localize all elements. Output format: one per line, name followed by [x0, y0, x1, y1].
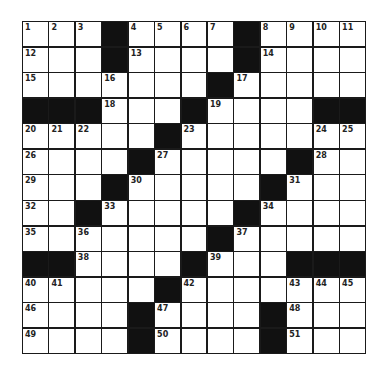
answer-cell[interactable]: 49 — [23, 329, 48, 353]
answer-cell[interactable]: 18 — [102, 99, 127, 123]
answer-cell[interactable]: 11 — [340, 22, 365, 46]
answer-cell[interactable] — [208, 124, 233, 148]
answer-cell[interactable]: 34 — [261, 201, 286, 225]
answer-cell[interactable] — [102, 329, 127, 353]
answer-cell[interactable]: 27 — [155, 150, 180, 174]
answer-cell[interactable]: 24 — [314, 124, 339, 148]
answer-cell[interactable] — [314, 73, 339, 97]
answer-cell[interactable] — [76, 278, 101, 302]
answer-cell[interactable] — [208, 150, 233, 174]
answer-cell[interactable]: 17 — [234, 73, 259, 97]
answer-cell[interactable]: 40 — [23, 278, 48, 302]
answer-cell[interactable]: 22 — [76, 124, 101, 148]
answer-cell[interactable] — [234, 124, 259, 148]
answer-cell[interactable]: 29 — [23, 175, 48, 199]
answer-cell[interactable]: 7 — [208, 22, 233, 46]
answer-cell[interactable]: 15 — [23, 73, 48, 97]
answer-cell[interactable] — [155, 99, 180, 123]
answer-cell[interactable] — [261, 150, 286, 174]
answer-cell[interactable] — [76, 48, 101, 72]
answer-cell[interactable] — [76, 175, 101, 199]
answer-cell[interactable] — [102, 252, 127, 276]
answer-cell[interactable] — [49, 201, 74, 225]
answer-cell[interactable] — [49, 329, 74, 353]
answer-cell[interactable] — [102, 150, 127, 174]
answer-cell[interactable] — [155, 201, 180, 225]
answer-cell[interactable]: 25 — [340, 124, 365, 148]
answer-cell[interactable] — [182, 175, 207, 199]
answer-cell[interactable]: 13 — [129, 48, 154, 72]
answer-cell[interactable]: 4 — [129, 22, 154, 46]
answer-cell[interactable]: 35 — [23, 227, 48, 251]
answer-cell[interactable]: 48 — [287, 303, 312, 327]
answer-cell[interactable] — [234, 175, 259, 199]
answer-cell[interactable]: 1 — [23, 22, 48, 46]
answer-cell[interactable] — [314, 303, 339, 327]
answer-cell[interactable] — [287, 124, 312, 148]
answer-cell[interactable]: 10 — [314, 22, 339, 46]
answer-cell[interactable] — [182, 227, 207, 251]
answer-cell[interactable] — [340, 73, 365, 97]
answer-cell[interactable] — [49, 73, 74, 97]
answer-cell[interactable]: 43 — [287, 278, 312, 302]
answer-cell[interactable]: 5 — [155, 22, 180, 46]
answer-cell[interactable] — [182, 48, 207, 72]
answer-cell[interactable] — [182, 303, 207, 327]
answer-cell[interactable]: 23 — [182, 124, 207, 148]
answer-cell[interactable] — [155, 73, 180, 97]
answer-cell[interactable] — [314, 201, 339, 225]
answer-cell[interactable] — [49, 48, 74, 72]
answer-cell[interactable] — [76, 329, 101, 353]
answer-cell[interactable] — [340, 329, 365, 353]
answer-cell[interactable] — [340, 150, 365, 174]
answer-cell[interactable]: 12 — [23, 48, 48, 72]
answer-cell[interactable]: 2 — [49, 22, 74, 46]
answer-cell[interactable]: 14 — [261, 48, 286, 72]
answer-cell[interactable] — [287, 227, 312, 251]
answer-cell[interactable]: 39 — [208, 252, 233, 276]
answer-cell[interactable] — [76, 150, 101, 174]
answer-cell[interactable] — [261, 278, 286, 302]
answer-cell[interactable]: 36 — [76, 227, 101, 251]
answer-cell[interactable] — [287, 99, 312, 123]
answer-cell[interactable] — [155, 227, 180, 251]
answer-cell[interactable] — [129, 124, 154, 148]
answer-cell[interactable] — [102, 278, 127, 302]
answer-cell[interactable]: 44 — [314, 278, 339, 302]
answer-cell[interactable]: 51 — [287, 329, 312, 353]
answer-cell[interactable] — [76, 303, 101, 327]
answer-cell[interactable] — [261, 227, 286, 251]
answer-cell[interactable] — [49, 175, 74, 199]
answer-cell[interactable] — [234, 252, 259, 276]
answer-cell[interactable]: 19 — [208, 99, 233, 123]
answer-cell[interactable]: 16 — [102, 73, 127, 97]
answer-cell[interactable] — [340, 303, 365, 327]
answer-cell[interactable] — [234, 150, 259, 174]
answer-cell[interactable]: 33 — [102, 201, 127, 225]
answer-cell[interactable] — [102, 227, 127, 251]
answer-cell[interactable] — [129, 227, 154, 251]
answer-cell[interactable] — [340, 227, 365, 251]
answer-cell[interactable] — [287, 48, 312, 72]
answer-cell[interactable] — [314, 175, 339, 199]
answer-cell[interactable] — [102, 303, 127, 327]
answer-cell[interactable] — [314, 329, 339, 353]
answer-cell[interactable] — [287, 73, 312, 97]
answer-cell[interactable] — [155, 48, 180, 72]
answer-cell[interactable]: 32 — [23, 201, 48, 225]
answer-cell[interactable]: 26 — [23, 150, 48, 174]
answer-cell[interactable]: 8 — [261, 22, 286, 46]
answer-cell[interactable] — [340, 175, 365, 199]
answer-cell[interactable] — [129, 73, 154, 97]
answer-cell[interactable]: 31 — [287, 175, 312, 199]
answer-cell[interactable]: 6 — [182, 22, 207, 46]
answer-cell[interactable]: 9 — [287, 22, 312, 46]
answer-cell[interactable] — [261, 124, 286, 148]
answer-cell[interactable]: 47 — [155, 303, 180, 327]
answer-cell[interactable]: 37 — [234, 227, 259, 251]
answer-cell[interactable]: 46 — [23, 303, 48, 327]
answer-cell[interactable]: 21 — [49, 124, 74, 148]
answer-cell[interactable]: 38 — [76, 252, 101, 276]
answer-cell[interactable] — [340, 201, 365, 225]
answer-cell[interactable] — [182, 150, 207, 174]
